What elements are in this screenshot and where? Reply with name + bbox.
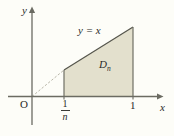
- fraction-numerator: 1: [57, 99, 73, 110]
- line-equation-label: y = x: [78, 25, 101, 36]
- origin-label: O: [20, 99, 28, 110]
- x-axis-arrowhead: [157, 93, 164, 99]
- y-axis-arrowhead: [29, 7, 35, 14]
- figure-canvas: [0, 0, 174, 136]
- x-tick-label-1: 1: [130, 100, 136, 111]
- fraction-denominator: n: [57, 112, 73, 123]
- region-label-dn: Dn: [99, 59, 111, 73]
- region-label-subscript: n: [107, 64, 111, 73]
- y-axis-label: y: [22, 5, 27, 16]
- guide-line-origin-to-1n: [32, 70, 64, 97]
- x-tick-label-1-over-n: 1 n: [57, 99, 73, 122]
- math-figure: y x O y = x Dn 1 n 1: [0, 0, 174, 136]
- x-axis-label: x: [160, 102, 165, 113]
- region-label-base: D: [99, 58, 107, 70]
